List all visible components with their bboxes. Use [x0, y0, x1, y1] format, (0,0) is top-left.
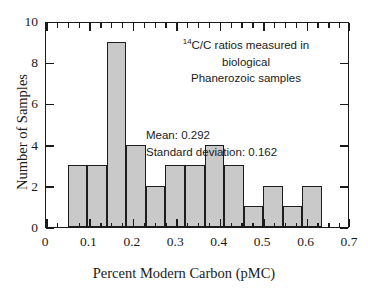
x-tick-label: 0.7 — [341, 234, 358, 250]
annotations-layer: 14C/C ratios measured inbiologicalPhaner… — [46, 23, 348, 227]
y-tick-label: 8 — [10, 55, 38, 71]
description-annotation: 14C/C ratios measured inbiologicalPhaner… — [151, 37, 341, 87]
y-right-major-tick — [340, 228, 348, 230]
x-tick-label: 0.2 — [123, 234, 140, 250]
mean-label: Mean: 0.292 — [146, 129, 210, 141]
y-axis-label: Number of Samples — [14, 74, 31, 190]
histogram-figure: Number of Samples 0 2 4 6 8 10 0 0.1 0.2… — [0, 0, 368, 289]
y-major-tick — [46, 228, 54, 230]
x-tick-label: 0.6 — [297, 234, 314, 250]
superscript-14: 14 — [183, 39, 192, 51]
stdev-label: Standard deviation: 0.162 — [146, 146, 277, 158]
x-axis-label: Percent Modern Carbon (pMC) — [0, 265, 368, 282]
x-tick-label: 0.4 — [210, 234, 227, 250]
x-tick-label: 0.3 — [167, 234, 184, 250]
x-tick-label: 0.5 — [254, 234, 271, 250]
x-top-major-tick — [349, 23, 351, 31]
y-tick-label: 2 — [10, 179, 38, 195]
y-tick-label: 6 — [10, 96, 38, 112]
plot-area: 14C/C ratios measured inbiologicalPhaner… — [45, 22, 349, 228]
y-tick-label: 4 — [10, 138, 38, 154]
description-line-3: Phanerozoic samples — [191, 72, 301, 84]
statistics-annotation: Mean: 0.292Standard deviation: 0.162 — [146, 127, 277, 160]
description-line-1: C/C ratios measured in — [192, 39, 310, 51]
y-tick-label: 0 — [10, 220, 38, 236]
description-line-2: biological — [222, 56, 270, 68]
x-tick-label: 0.1 — [80, 234, 97, 250]
x-major-tick — [349, 219, 351, 227]
y-tick-label: 10 — [10, 14, 38, 30]
x-tick-label: 0 — [42, 234, 49, 250]
